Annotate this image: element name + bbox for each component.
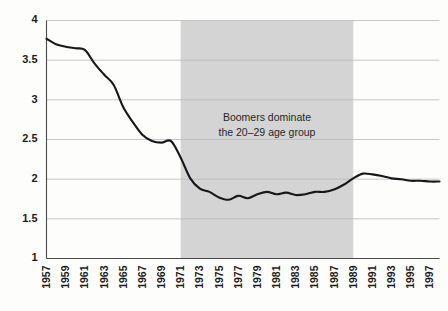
- x-tick-label: 1975: [213, 265, 225, 289]
- x-tick-label: 1973: [193, 265, 205, 289]
- x-tick-label: 1989: [347, 265, 359, 289]
- annotation-line-1: Boomers dominate: [223, 111, 311, 123]
- y-tick-label: 2: [31, 172, 37, 184]
- x-tick-label: 1985: [308, 265, 320, 289]
- x-tick-label: 1977: [232, 265, 244, 289]
- x-tick-label: 1961: [78, 265, 90, 289]
- x-tick-label: 1979: [251, 265, 263, 289]
- x-tick-label: 1965: [117, 265, 129, 289]
- y-tick-label: 3.5: [22, 53, 37, 65]
- x-tick-label: 1967: [136, 265, 148, 289]
- x-tick-label: 1987: [328, 265, 340, 289]
- y-tick-label: 1.5: [22, 212, 37, 224]
- x-tick-label: 1959: [59, 265, 71, 289]
- x-tick-label: 1995: [404, 265, 416, 289]
- y-tick-label: 1: [31, 251, 37, 263]
- y-tick-label: 2.5: [22, 132, 37, 144]
- x-tick-label: 1963: [98, 265, 110, 289]
- x-axis-tick-labels: 1957195919611963196519671969197119731975…: [40, 265, 435, 289]
- x-tick-label: 1991: [366, 265, 378, 289]
- y-tick-label: 3: [31, 93, 37, 105]
- x-tick-label: 1969: [155, 265, 167, 289]
- x-tick-label: 1993: [385, 265, 397, 289]
- chart-canvas: 11.522.533.54 19571959196119631965196719…: [0, 0, 448, 311]
- x-tick-label: 1981: [270, 265, 282, 289]
- x-tick-label: 1957: [40, 265, 52, 289]
- x-tick-label: 1983: [289, 265, 301, 289]
- annotation-line-2: the 20–29 age group: [219, 126, 316, 138]
- y-axis-tick-labels: 11.522.533.54: [22, 13, 38, 263]
- fertility-rate-chart: 11.522.533.54 19571959196119631965196719…: [0, 0, 448, 311]
- x-tick-label: 1971: [174, 265, 186, 289]
- x-tick-label: 1997: [423, 265, 435, 289]
- y-tick-label: 4: [31, 13, 38, 25]
